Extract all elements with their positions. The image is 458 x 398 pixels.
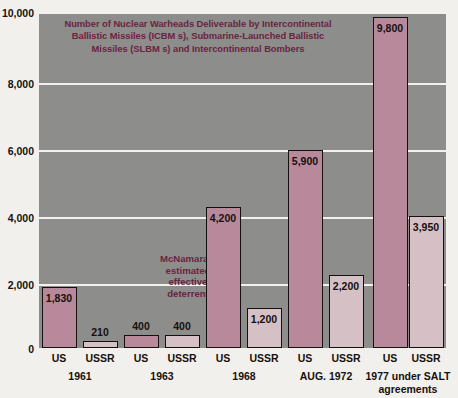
- x-group-label-1977: 1977 under SALT agreements: [348, 370, 458, 395]
- y-tick-label-8000: 8,000: [0, 78, 34, 90]
- chart-title-line-3: Missiles (SLBM s) and Intercontinental B…: [48, 43, 348, 55]
- group-label-line-1: 1977 under SALT: [348, 370, 458, 383]
- bar-ussr-1961: [83, 341, 118, 348]
- bar-us-1972: [288, 150, 323, 348]
- bar-value-us-1972: 5,900: [275, 155, 335, 167]
- y-tick-label-10000: 10,000: [0, 7, 34, 19]
- bar-value-us-1961: 1,830: [29, 292, 89, 304]
- bar-ussr-1977: [409, 216, 444, 348]
- bar-value-ussr-1977: 3,950: [396, 221, 456, 233]
- bar-us-1968: [206, 207, 241, 348]
- x-label-ussr-1977: USSR: [396, 352, 456, 364]
- bar-value-us-1977: 9,800: [360, 22, 420, 34]
- y-tick-label-4000: 4,000: [0, 212, 34, 224]
- chart-title: Number of Nuclear Warheads Deliverable b…: [48, 18, 348, 55]
- bar-value-ussr-1972: 2,200: [316, 280, 376, 292]
- bar-us-1963: [124, 335, 159, 348]
- chart-root: 10,000 8,000 6,000 4,000 2,000 0 Number …: [0, 0, 458, 398]
- chart-title-line-1: Number of Nuclear Warheads Deliverable b…: [48, 18, 348, 30]
- y-tick-label-2000: 2,000: [0, 279, 34, 291]
- bar-ussr-1963: [165, 335, 200, 348]
- gridline-10000: [39, 12, 446, 14]
- bar-value-ussr-1968: 1,200: [234, 313, 294, 325]
- bar-us-1977: [373, 17, 408, 348]
- group-label-line-2: agreements: [348, 383, 458, 396]
- y-tick-label-6000: 6,000: [0, 145, 34, 157]
- chart-title-line-2: Ballistic Missiles (ICBM s), Submarine-L…: [48, 30, 348, 42]
- bar-value-ussr-1963: 400: [152, 320, 212, 332]
- bar-value-us-1968: 4,200: [193, 212, 253, 224]
